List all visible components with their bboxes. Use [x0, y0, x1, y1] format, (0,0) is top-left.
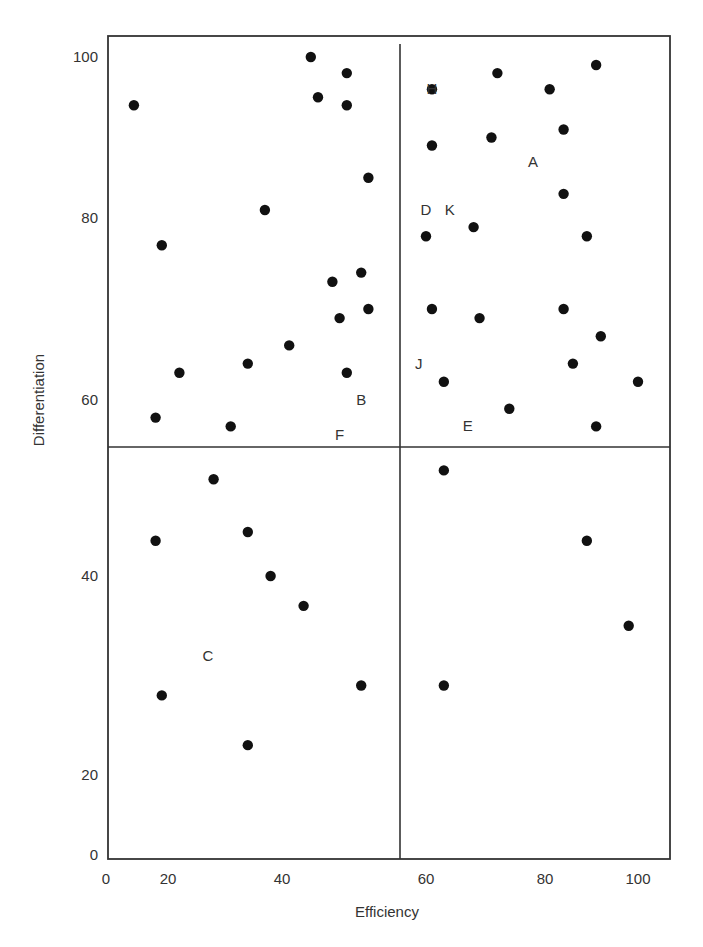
data-point [427, 140, 437, 150]
data-point [558, 124, 568, 134]
annotation-label: A [528, 153, 538, 170]
data-point [334, 313, 344, 323]
annotation-label: F [335, 426, 344, 443]
data-point [439, 465, 449, 475]
x-axis-tick-labels: 020406080100 [102, 870, 651, 887]
annotation-label: E [463, 417, 473, 434]
y-tick-label: 20 [81, 766, 98, 783]
x-tick-label: 80 [537, 870, 554, 887]
data-point [596, 331, 606, 341]
data-point [150, 536, 160, 546]
x-tick-label: 0 [102, 870, 110, 887]
annotation-label: J [415, 355, 423, 372]
y-tick-label: 60 [81, 391, 98, 408]
data-point [284, 340, 294, 350]
annotation-label: K [445, 201, 455, 218]
data-point [356, 680, 366, 690]
data-point [313, 92, 323, 102]
data-point [582, 536, 592, 546]
data-point [558, 304, 568, 314]
data-point [439, 377, 449, 387]
data-point [174, 368, 184, 378]
data-point [468, 222, 478, 232]
data-point [306, 52, 316, 62]
x-tick-label: 60 [418, 870, 435, 887]
y-tick-label: 80 [81, 209, 98, 226]
data-point [439, 680, 449, 690]
data-point [157, 240, 167, 250]
data-point [327, 277, 337, 287]
y-tick-label: 100 [73, 48, 98, 65]
annotation-label: B [356, 391, 366, 408]
annotation-label: C [202, 647, 213, 664]
data-points [129, 52, 644, 751]
data-point [260, 205, 270, 215]
y-tick-label: 0 [90, 846, 98, 863]
data-point [363, 173, 373, 183]
data-point [208, 474, 218, 484]
data-point [591, 60, 601, 70]
data-point [492, 68, 502, 78]
y-axis-tick-labels: 020406080100 [73, 48, 98, 863]
data-point [633, 377, 643, 387]
data-point [342, 100, 352, 110]
data-point [591, 421, 601, 431]
data-point [243, 527, 253, 537]
data-point [265, 571, 275, 581]
data-point [474, 313, 484, 323]
data-point [150, 412, 160, 422]
annotation-label: D [421, 201, 432, 218]
x-axis-title: Efficiency [355, 903, 419, 920]
x-tick-label: 100 [625, 870, 650, 887]
point-annotations: HADKJEBFC [202, 80, 538, 663]
x-tick-label: 20 [160, 870, 177, 887]
y-tick-label: 40 [81, 567, 98, 584]
data-point [298, 601, 308, 611]
annotation-label: H [427, 80, 438, 97]
data-point [427, 304, 437, 314]
data-point [544, 84, 554, 94]
data-point [342, 368, 352, 378]
data-point [226, 421, 236, 431]
data-point [129, 100, 139, 110]
data-point [504, 404, 514, 414]
data-point [342, 68, 352, 78]
x-tick-label: 40 [274, 870, 291, 887]
data-point [582, 231, 592, 241]
data-point [568, 358, 578, 368]
data-point [243, 740, 253, 750]
data-point [486, 132, 496, 142]
data-point [558, 189, 568, 199]
scatter-chart: 020406080100 020406080100 Differentiatio… [0, 0, 703, 947]
data-point [363, 304, 373, 314]
data-point [243, 358, 253, 368]
data-point [624, 621, 634, 631]
data-point [356, 267, 366, 277]
data-point [157, 690, 167, 700]
data-point [421, 231, 431, 241]
y-axis-title: Differentiation [30, 354, 47, 446]
